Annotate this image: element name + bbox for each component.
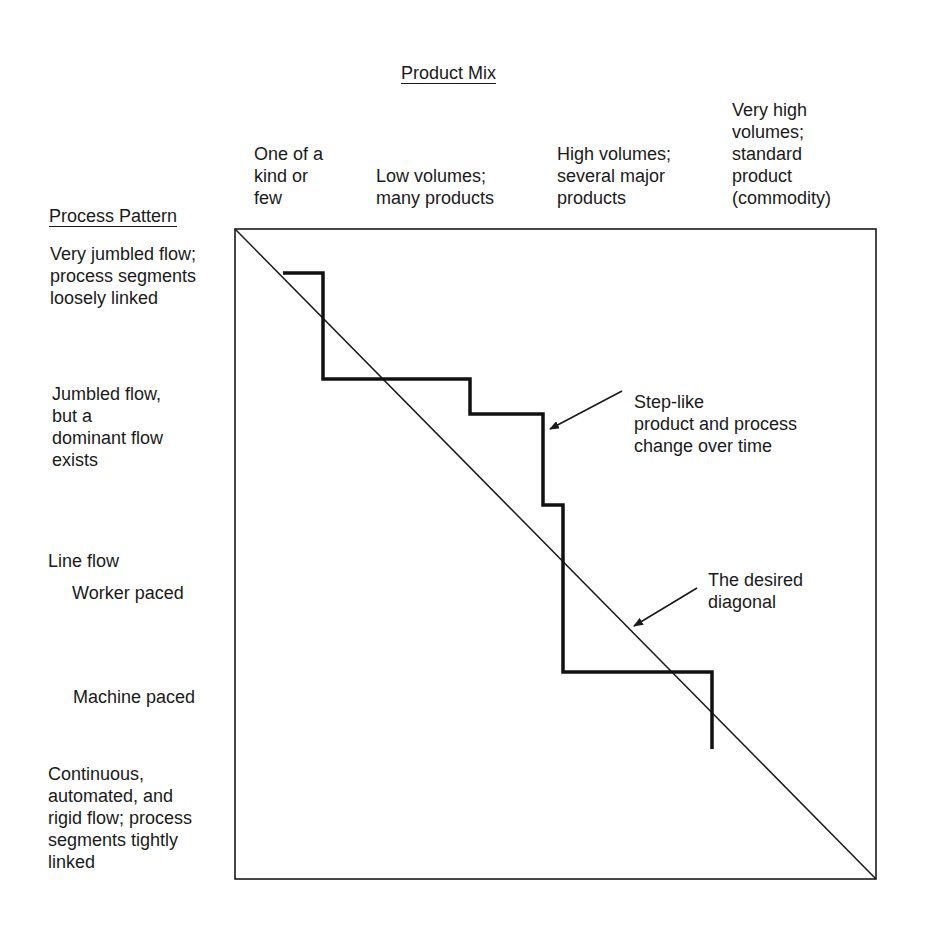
diagonal-arrow — [634, 588, 697, 626]
step-path-line — [283, 273, 712, 749]
step-arrow — [550, 391, 622, 429]
desired-diagonal-line — [235, 229, 876, 879]
matrix-plot — [0, 0, 930, 925]
